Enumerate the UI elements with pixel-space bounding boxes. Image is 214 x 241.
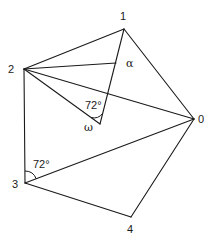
pentagon-diagram: 1 2 0 3 4 α ω 72° 72° xyxy=(0,0,214,241)
angle-arc-omega xyxy=(91,113,103,118)
edge-4-0 xyxy=(131,119,194,217)
edge-1-0 xyxy=(124,29,194,119)
angle-label-3: 72° xyxy=(33,158,50,170)
edge-2-3 xyxy=(24,69,25,183)
vertex-label-3: 3 xyxy=(12,178,18,190)
point-label-omega: ω xyxy=(84,121,93,134)
edge-2-0 xyxy=(24,69,194,119)
edge-3-4 xyxy=(25,183,131,217)
edge-2-omega xyxy=(24,69,100,124)
angle-arc-3 xyxy=(25,171,36,179)
edge-3-0 xyxy=(25,119,194,183)
vertex-label-2: 2 xyxy=(8,63,14,75)
vertex-label-1: 1 xyxy=(120,10,126,22)
point-label-alpha: α xyxy=(126,57,134,70)
angle-label-omega: 72° xyxy=(85,99,102,111)
vertex-label-0: 0 xyxy=(198,113,204,125)
edge-1-omega xyxy=(100,29,124,124)
vertex-label-4: 4 xyxy=(127,223,133,235)
